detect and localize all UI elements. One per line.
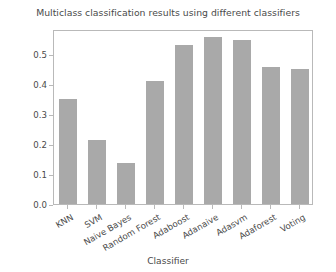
x-tick-mark bbox=[299, 205, 300, 209]
y-tick-label: 0.4 bbox=[7, 80, 47, 90]
y-tick-label: 0.0 bbox=[7, 200, 47, 210]
y-tick-mark bbox=[49, 145, 53, 146]
y-tick-label: 0.5 bbox=[7, 50, 47, 60]
x-tick-mark bbox=[270, 205, 271, 209]
y-tick-mark bbox=[49, 55, 53, 56]
bar bbox=[233, 40, 251, 204]
bar bbox=[262, 67, 280, 204]
bar bbox=[88, 140, 106, 204]
y-tick-label: 0.2 bbox=[7, 140, 47, 150]
y-tick-mark bbox=[49, 85, 53, 86]
bar bbox=[175, 45, 193, 204]
bar bbox=[146, 81, 164, 204]
x-tick-mark bbox=[154, 205, 155, 209]
chart-figure: Multiclass classification results using … bbox=[0, 0, 336, 272]
y-tick-mark bbox=[49, 115, 53, 116]
bar bbox=[59, 99, 77, 204]
bar bbox=[204, 37, 222, 204]
bars-layer bbox=[54, 31, 312, 204]
bar bbox=[117, 163, 135, 204]
x-tick-mark bbox=[183, 205, 184, 209]
x-tick-mark bbox=[212, 205, 213, 209]
chart-title: Multiclass classification results using … bbox=[0, 7, 336, 18]
x-tick-mark bbox=[241, 205, 242, 209]
x-tick-mark bbox=[67, 205, 68, 209]
bar bbox=[291, 69, 309, 204]
plot-area bbox=[53, 30, 313, 205]
y-tick-mark bbox=[49, 175, 53, 176]
y-tick-mark bbox=[49, 205, 53, 206]
y-tick-label: 0.3 bbox=[7, 110, 47, 120]
y-tick-label: 0.1 bbox=[7, 170, 47, 180]
x-tick-mark bbox=[96, 205, 97, 209]
x-tick-mark bbox=[125, 205, 126, 209]
y-axis-label: Score bbox=[0, 109, 1, 134]
